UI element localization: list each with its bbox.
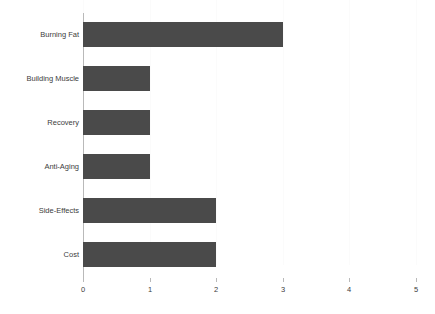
x-tick-label: 4	[337, 285, 361, 294]
x-tick-mark	[150, 278, 151, 282]
x-tick-label: 5	[404, 285, 428, 294]
bar-recovery	[83, 110, 150, 135]
y-tick-label: Burning Fat	[3, 30, 79, 39]
x-tick-mark	[83, 278, 84, 282]
x-tick-mark	[216, 278, 217, 282]
y-tick-label: Side-Effects	[3, 206, 79, 215]
bar-slot	[83, 145, 416, 189]
bar-slot	[83, 57, 416, 101]
bar-anti-aging	[83, 154, 150, 179]
x-tick-mark	[283, 278, 284, 282]
bar-slot	[83, 233, 416, 277]
x-axis: 0 1 2 3 4 5	[0, 278, 435, 314]
bar-slot	[83, 189, 416, 233]
bar-slot	[83, 101, 416, 145]
gridline-5	[416, 0, 417, 265]
bar-side-effects	[83, 198, 216, 223]
plot-area	[83, 13, 416, 278]
y-tick-label: Anti-Aging	[3, 162, 79, 171]
x-tick-mark	[349, 278, 350, 282]
bar-building-muscle	[83, 66, 150, 91]
bar-slot	[83, 13, 416, 57]
bar-cost	[83, 242, 216, 267]
y-tick-label: Recovery	[3, 118, 79, 127]
x-tick-label: 2	[204, 285, 228, 294]
x-tick-mark	[416, 278, 417, 282]
bar-burning-fat	[83, 22, 283, 47]
y-tick-label: Building Muscle	[3, 74, 79, 83]
x-tick-label: 0	[71, 285, 95, 294]
y-tick-label: Cost	[3, 250, 79, 259]
y-axis-labels: Burning Fat Building Muscle Recovery Ant…	[0, 13, 79, 278]
x-tick-label: 1	[138, 285, 162, 294]
x-tick-label: 3	[271, 285, 295, 294]
bar-chart: Burning Fat Building Muscle Recovery Ant…	[0, 0, 435, 314]
